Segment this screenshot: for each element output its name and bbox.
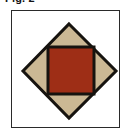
figure-frame-box [11,10,120,128]
inner-square-shape [48,47,94,94]
figure-caption-label: Fig. 2 [5,0,35,4]
figure-drawing-canvas [12,11,121,129]
figure-container: Fig. 2 [0,0,132,136]
